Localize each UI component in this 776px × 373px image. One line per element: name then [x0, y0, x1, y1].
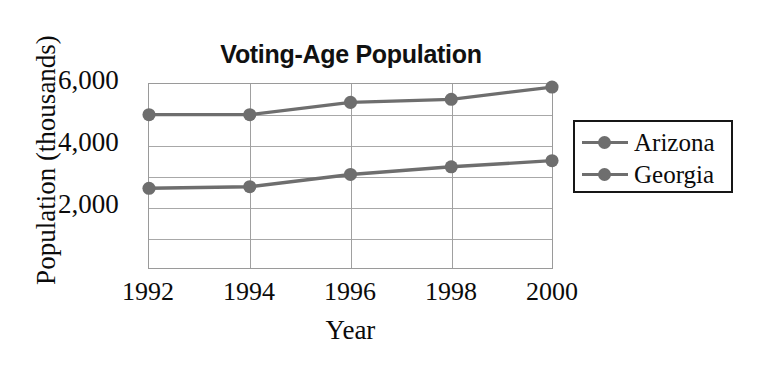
x-axis-title: Year — [148, 315, 553, 346]
data-point — [243, 108, 256, 121]
legend-label-georgia: Georgia — [628, 162, 714, 187]
x-tick-label-1994: 1994 — [204, 277, 294, 307]
series-georgia — [142, 81, 558, 122]
chart-legend: Arizona Georgia — [573, 120, 733, 193]
chart-title: Voting-Age Population — [148, 40, 554, 69]
data-point — [344, 96, 357, 109]
x-tick-label-1992: 1992 — [103, 277, 193, 307]
x-tick-label-1998: 1998 — [406, 277, 496, 307]
line-dot-marker-icon — [582, 135, 628, 149]
data-point — [545, 154, 558, 167]
data-point — [545, 81, 558, 94]
series-layer — [149, 84, 552, 268]
line-dot-marker-icon — [582, 167, 628, 181]
plot-area — [148, 83, 553, 269]
x-tick-label-2000: 2000 — [507, 277, 597, 307]
legend-item-georgia[interactable]: Georgia — [575, 158, 731, 190]
legend-label-arizona: Arizona — [628, 130, 715, 155]
data-point — [142, 108, 155, 121]
y-tick-label-6000: 6,000 — [58, 65, 119, 96]
data-point — [445, 160, 458, 173]
chart-figure: Population (thousands) Voting-Age Popula… — [0, 0, 776, 373]
data-point — [243, 180, 256, 193]
y-tick-label-4000: 4,000 — [58, 127, 119, 158]
data-point — [344, 168, 357, 181]
x-tick-label-1996: 1996 — [305, 277, 395, 307]
data-point — [142, 182, 155, 195]
legend-item-arizona[interactable]: Arizona — [575, 126, 731, 158]
data-point — [445, 93, 458, 106]
y-axis-title: Population (thousands) — [29, 10, 63, 310]
series-arizona — [142, 154, 558, 195]
y-tick-label-2000: 2,000 — [58, 189, 119, 220]
